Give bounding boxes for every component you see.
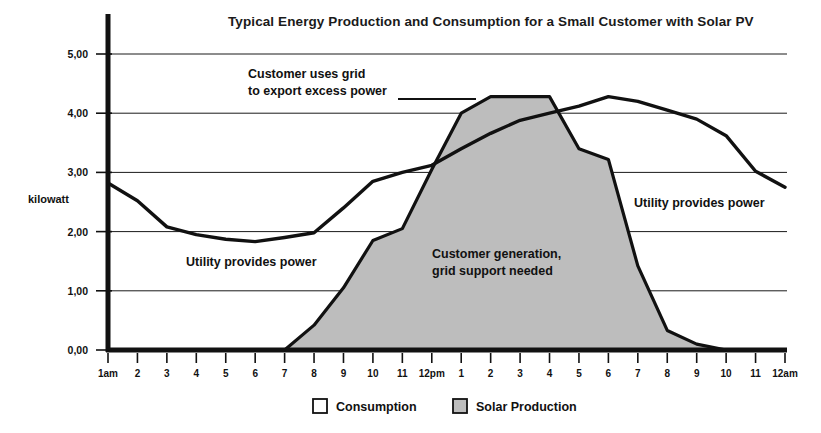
x-tick-label: 2 <box>135 368 141 379</box>
x-tick-label: 4 <box>194 368 200 379</box>
annotation-export-excess: Customer uses grid to export excess powe… <box>248 67 476 99</box>
annotation-customer-generation-line2: grid support needed <box>432 264 553 278</box>
chart-root: Typical Energy Production and Consumptio… <box>0 0 821 433</box>
x-tick-label: 12am <box>772 368 798 379</box>
x-tick-label: 2 <box>488 368 494 379</box>
x-axis-ticks: 1am23456789101112pm123456789101112am <box>98 353 798 379</box>
legend-swatch-solar-production <box>453 399 467 413</box>
x-tick-label: 11 <box>750 368 761 379</box>
x-tick-label: 7 <box>282 368 288 379</box>
y-tick-label: 0,00 <box>68 344 89 356</box>
annotation-customer-generation-line1: Customer generation, <box>432 247 561 261</box>
energy-chart: Typical Energy Production and Consumptio… <box>0 0 821 433</box>
x-tick-label: 1 <box>458 368 464 379</box>
x-tick-label: 8 <box>664 368 670 379</box>
y-axis-label: kilowatt <box>28 193 69 205</box>
solar-production-area <box>285 97 727 350</box>
y-tick-label: 2,00 <box>68 226 89 238</box>
x-tick-label: 9 <box>694 368 700 379</box>
x-tick-label: 5 <box>576 368 582 379</box>
y-axis-ticks: 0,001,002,003,004,005,00 <box>68 48 112 356</box>
x-tick-label: 1am <box>98 368 118 379</box>
x-tick-label: 10 <box>721 368 733 379</box>
x-tick-label: 6 <box>252 368 258 379</box>
chart-title: Typical Energy Production and Consumptio… <box>228 14 754 29</box>
y-tick-label: 1,00 <box>68 285 89 297</box>
legend-label-consumption: Consumption <box>336 400 417 414</box>
x-tick-label: 6 <box>606 368 612 379</box>
y-tick-label: 5,00 <box>68 48 89 60</box>
annotation-utility-right: Utility provides power <box>634 196 765 210</box>
x-tick-label: 5 <box>223 368 229 379</box>
x-tick-label: 7 <box>635 368 641 379</box>
chart-legend: Consumption Solar Production <box>313 399 577 414</box>
x-tick-label: 11 <box>397 368 408 379</box>
x-tick-label: 3 <box>164 368 170 379</box>
y-tick-label: 4,00 <box>68 107 89 119</box>
x-tick-label: 8 <box>311 368 317 379</box>
legend-swatch-consumption <box>313 399 327 413</box>
legend-label-solar-production: Solar Production <box>476 400 577 414</box>
annotation-export-excess-line1: Customer uses grid <box>248 67 365 81</box>
annotation-export-excess-line2: to export excess power <box>248 84 387 98</box>
annotation-utility-left: Utility provides power <box>186 255 317 269</box>
x-tick-label: 4 <box>547 368 553 379</box>
x-tick-label: 12pm <box>419 368 445 379</box>
x-tick-label: 10 <box>367 368 379 379</box>
y-tick-label: 3,00 <box>68 166 89 178</box>
x-tick-label: 3 <box>517 368 523 379</box>
x-tick-label: 9 <box>341 368 347 379</box>
